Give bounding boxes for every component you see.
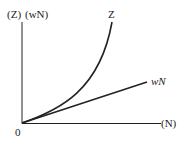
origin-label: 0 <box>15 127 21 138</box>
diagram-canvas <box>0 0 186 142</box>
wn-line <box>22 82 147 123</box>
curve-label-z: Z <box>108 9 115 20</box>
x-axis-label-n: (N) <box>161 118 176 129</box>
line-label-wn: wN <box>151 76 166 87</box>
y-axis-label-wn: (wN) <box>25 9 48 20</box>
y-axis-label-z: (Z) <box>7 9 21 20</box>
